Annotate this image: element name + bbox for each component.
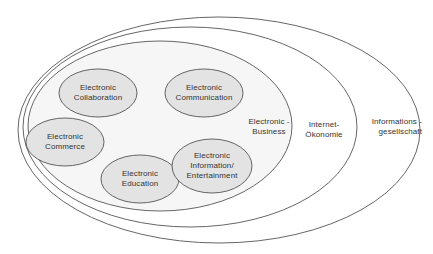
label-electronic-commerce: Electronic Commerce [26,132,104,152]
nested-ellipse-diagram: Informations - gesellschaft Internet- Ök… [0,0,433,254]
label-line: Electronic [165,83,243,93]
label-line: Internet- [302,120,346,130]
label-line: Electronic - [247,117,291,127]
label-line: Business [247,127,291,137]
label-line: gesellschaft [366,127,422,137]
label-line: Electronic [101,169,179,179]
label-line: Collaboration [59,93,137,103]
label-line: Entertainment [172,171,252,181]
label-line: Informations - [366,117,422,127]
label-line: Commerce [26,142,104,152]
label-line: Communication [165,93,243,103]
label-line: Electronic [172,151,252,161]
label-electronic-business: Electronic - Business [247,117,291,137]
label-electronic-education: Electronic Education [101,169,179,189]
label-line: Electronic [59,83,137,93]
label-line: Education [101,179,179,189]
label-electronic-communication: Electronic Communication [165,83,243,103]
label-line: Electronic [26,132,104,142]
label-internet-oekonomie: Internet- Ökonomie [302,120,346,140]
label-line: Ökonomie [302,130,346,140]
label-electronic-information-entertainment: Electronic Information/ Entertainment [172,151,252,181]
label-line: Information/ [172,161,252,171]
label-electronic-collaboration: Electronic Collaboration [59,83,137,103]
label-informationsgesellschaft: Informations - gesellschaft [366,117,422,137]
